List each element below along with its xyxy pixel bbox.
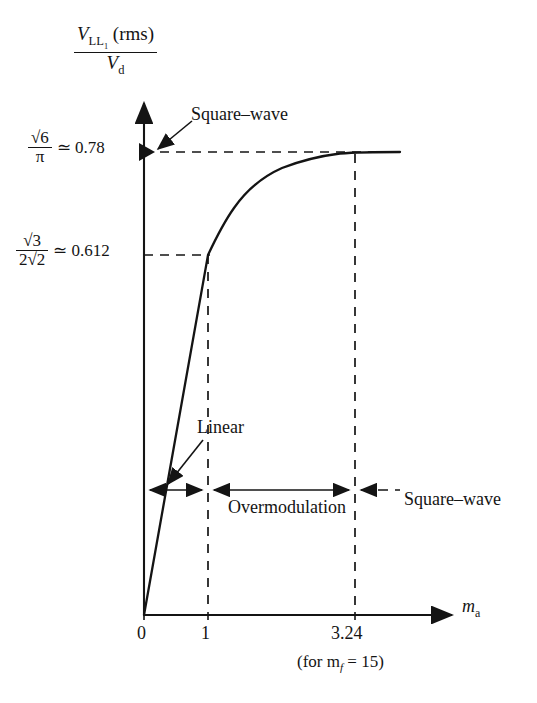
x-axis-label-sub: a (475, 606, 480, 620)
annotation-square-wave-top: Square–wave (191, 104, 288, 125)
ytick-label-078: √6 π ≃ 0.78 (28, 129, 105, 167)
ytick-078-approx: ≃ 0.78 (57, 137, 105, 158)
data-curve (144, 152, 400, 615)
x-axis-label: ma (462, 596, 480, 621)
x-axis-note: (for mf = 15) (297, 652, 384, 673)
annotation-square-wave-right: Square–wave (404, 489, 501, 510)
ytick-0612-approx: ≃ 0.612 (53, 240, 110, 261)
x-axis-label-symbol: m (462, 596, 475, 616)
ytick-0612-numerator: √3 (16, 232, 48, 250)
annotation-overmodulation: Overmodulation (228, 497, 346, 518)
xtick-label-0: 0 (137, 623, 146, 644)
y-axis-den-symbol: V (107, 52, 119, 73)
square-wave-limit-marker-icon (139, 143, 155, 161)
ytick-label-0612: √3 2√2 ≃ 0.612 (16, 232, 110, 270)
y-axis-num-symbol: V (77, 23, 89, 44)
xtick-label-324: 3.24 (331, 623, 363, 644)
annotation-linear: Linear (197, 417, 244, 438)
x-axis-note-tail: = 15) (343, 652, 384, 671)
square-wave-top-leader (158, 121, 192, 149)
ytick-078-numerator: √6 (28, 129, 52, 147)
figure-canvas: VLL1 (rms) Vd √6 π ≃ 0.78 √3 2√2 ≃ 0.612… (0, 0, 537, 703)
ytick-078-denominator: π (28, 147, 52, 166)
y-axis-num-sub: LL1 (89, 34, 108, 48)
ytick-0612-denominator: 2√2 (16, 250, 48, 269)
y-axis-den-sub: d (118, 63, 124, 77)
xtick-label-1: 1 (201, 623, 210, 644)
x-axis-note-head: (for m (297, 652, 340, 671)
y-axis-title: VLL1 (rms) Vd (74, 24, 157, 78)
y-axis-num-tail: (rms) (113, 23, 154, 44)
